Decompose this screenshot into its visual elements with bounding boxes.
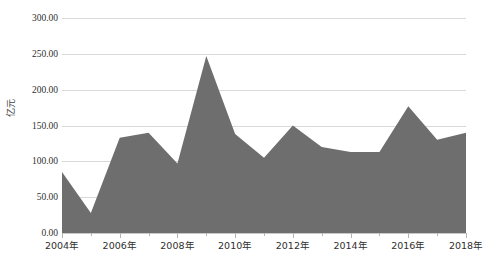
y-axis-tick-label: 100.00	[4, 156, 58, 166]
area-polygon	[62, 56, 466, 233]
x-axis-tick-mark	[177, 233, 178, 238]
x-axis-tick-labels: 2004年2006年2008年2010年2012年2014年2016年2018年	[0, 240, 476, 260]
y-axis-tick-label: 150.00	[4, 121, 58, 131]
x-axis-tick-mark	[466, 233, 467, 238]
y-axis-tick-label: 200.00	[4, 85, 58, 95]
x-axis-tick-label: 2010年	[205, 240, 265, 252]
plot-area	[62, 18, 466, 233]
x-axis-tick-label: 2012年	[263, 240, 323, 252]
y-axis-tick-labels: 300.00250.00200.00150.00100.0050.000.00	[0, 0, 58, 270]
x-axis-tick-label: 2018年	[436, 240, 487, 252]
x-axis-tick-label: 2004年	[32, 240, 92, 252]
y-axis-tick-label: 300.00	[4, 13, 58, 23]
y-axis-tick-label: 250.00	[4, 49, 58, 59]
x-axis-minor-tick-mark	[149, 233, 150, 236]
x-axis-minor-tick-mark	[322, 233, 323, 236]
x-axis-tick-label: 2008年	[147, 240, 207, 252]
x-axis-minor-tick-mark	[206, 233, 207, 236]
x-axis-tick-mark	[62, 233, 63, 238]
x-axis-minor-tick-mark	[379, 233, 380, 236]
x-axis-tick-mark	[120, 233, 121, 238]
x-axis-tick-mark	[408, 233, 409, 238]
x-axis-tick-mark	[235, 233, 236, 238]
x-axis-tick-label: 2016年	[378, 240, 438, 252]
x-axis-tick-label: 2006年	[90, 240, 150, 252]
x-axis-tick-mark	[351, 233, 352, 238]
x-axis-minor-tick-mark	[91, 233, 92, 236]
x-axis-tick-label: 2014年	[321, 240, 381, 252]
area-series	[62, 18, 466, 233]
x-axis-tick-mark	[293, 233, 294, 238]
x-axis-tick-marks	[62, 233, 466, 239]
x-axis-minor-tick-mark	[437, 233, 438, 236]
y-axis-tick-label: 50.00	[4, 192, 58, 202]
y-axis-tick-label: 0.00	[4, 228, 58, 238]
x-axis-minor-tick-mark	[264, 233, 265, 236]
